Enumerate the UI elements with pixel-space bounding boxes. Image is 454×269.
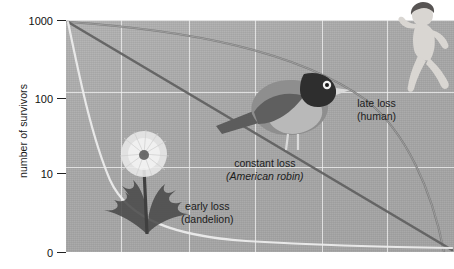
y-tick-1000-label: 1000 (29, 15, 53, 27)
y-tick-100-mark (57, 98, 66, 99)
annotation-late-loss-line1: late loss (357, 97, 396, 110)
annotation-constant-loss-line2: (American robin) (226, 170, 304, 183)
robin-head (300, 73, 336, 107)
y-axis: number of survivors 1000 100 10 0 (0, 0, 66, 269)
y-tick-0: 0 (47, 246, 66, 258)
human-leg-back (426, 58, 449, 89)
annotation-constant-loss-line1: constant loss (226, 157, 304, 170)
dandelion-seedhead (120, 130, 169, 177)
human-leg-front (408, 56, 426, 92)
y-tick-10: 10 (41, 167, 66, 179)
annotation-late-loss: late loss (human) (357, 97, 396, 122)
survivorship-curve-figure: number of survivors 1000 100 10 0 (0, 0, 454, 269)
y-tick-100-label: 100 (35, 93, 53, 105)
human-illustration (396, 2, 452, 94)
human-torso (413, 23, 435, 60)
robin-legs (286, 134, 298, 150)
annotation-constant-loss: constant loss (American robin) (226, 157, 304, 182)
annotation-early-loss-line1: early loss (181, 200, 234, 213)
y-tick-0-mark (57, 252, 66, 253)
y-tick-100: 100 (35, 92, 66, 104)
x-axis-cropped-label (208, 263, 248, 269)
y-axis-title: number of survivors (17, 46, 29, 216)
robin-pupil (325, 83, 329, 87)
annotation-late-loss-line2: (human) (357, 110, 396, 123)
american-robin-illustration (208, 52, 350, 152)
robin-beak (336, 88, 350, 95)
annotation-early-loss-line2: (dandelion) (181, 213, 234, 226)
y-tick-1000-mark (57, 20, 66, 21)
annotation-early-loss: early loss (dandelion) (181, 200, 234, 225)
y-tick-0-label: 0 (47, 247, 53, 259)
y-tick-1000: 1000 (29, 14, 66, 26)
y-tick-10-label: 10 (41, 168, 53, 180)
y-tick-10-mark (57, 173, 66, 174)
